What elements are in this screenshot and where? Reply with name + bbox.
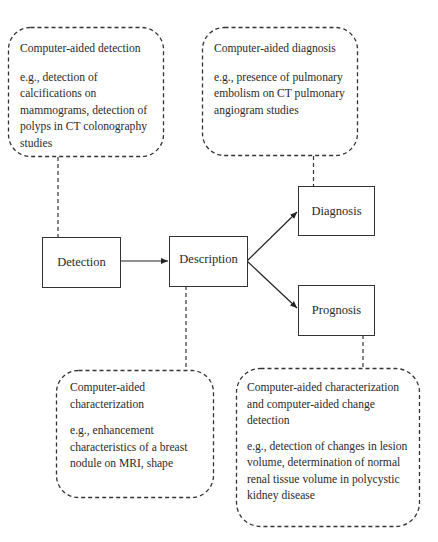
node-diagnosis-label: Diagnosis	[312, 204, 362, 219]
note-title: Computer-aided detection	[20, 41, 154, 58]
note-title: Computer-aided characterization and comp…	[247, 380, 414, 430]
note-body: e.g., enhancement characteristics of a b…	[70, 423, 194, 473]
note-cad-change-detection: Computer-aided characterization and comp…	[236, 368, 420, 527]
note-title: Computer-aided characterization	[70, 380, 194, 413]
arrow-description-to-prognosis	[247, 261, 297, 308]
note-cad-characterization: Computer-aided characterization e.g., en…	[56, 370, 214, 498]
node-description-label: Description	[179, 252, 237, 267]
node-detection-label: Detection	[57, 255, 106, 270]
node-detection: Detection	[42, 237, 121, 288]
arrow-description-to-diagnosis	[247, 212, 297, 261]
node-prognosis-label: Prognosis	[312, 303, 361, 318]
note-body: e.g., presence of pulmonary embolism on …	[214, 70, 348, 120]
note-cad-detection: Computer-aided detection e.g., detection…	[8, 27, 164, 157]
note-body: e.g., detection of calcifications on mam…	[20, 70, 154, 153]
node-description: Description	[169, 236, 248, 287]
node-prognosis: Prognosis	[298, 285, 375, 336]
note-title: Computer-aided diagnosis	[214, 41, 348, 58]
note-body: e.g., detection of changes in lesion vol…	[247, 439, 414, 505]
node-diagnosis: Diagnosis	[298, 186, 375, 236]
note-cad-diagnosis: Computer-aided diagnosis e.g., presence …	[202, 27, 358, 156]
